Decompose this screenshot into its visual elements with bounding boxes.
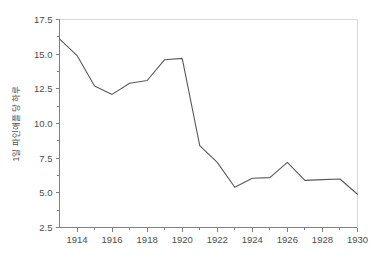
- chart-background: [0, 0, 388, 266]
- y-tick-label: 17.5: [34, 14, 53, 25]
- y-axis-title: 1일 파인애플 당 하루: [11, 86, 21, 162]
- y-tick-label: 7.5: [39, 153, 52, 164]
- line-chart: 2.55.07.510.012.515.017.5 19141916191819…: [0, 0, 388, 266]
- y-tick-label: 12.5: [34, 83, 53, 94]
- x-tick-label: 1930: [347, 234, 368, 245]
- y-tick-label: 10.0: [34, 118, 53, 129]
- x-tick-label: 1916: [102, 234, 123, 245]
- x-tick-label: 1924: [242, 234, 263, 245]
- y-tick-label: 2.5: [39, 222, 52, 233]
- chart-figure: 2.55.07.510.012.515.017.5 19141916191819…: [0, 0, 388, 266]
- x-tick-label: 1926: [277, 234, 298, 245]
- y-tick-label: 15.0: [34, 49, 53, 60]
- x-axis-tick-labels: 191419161918192019221924192619281930: [66, 234, 368, 245]
- x-tick-label: 1920: [172, 234, 193, 245]
- x-tick-label: 1922: [207, 234, 228, 245]
- y-tick-label: 5.0: [39, 187, 52, 198]
- x-tick-label: 1914: [66, 234, 87, 245]
- x-tick-label: 1928: [312, 234, 333, 245]
- x-tick-label: 1918: [137, 234, 158, 245]
